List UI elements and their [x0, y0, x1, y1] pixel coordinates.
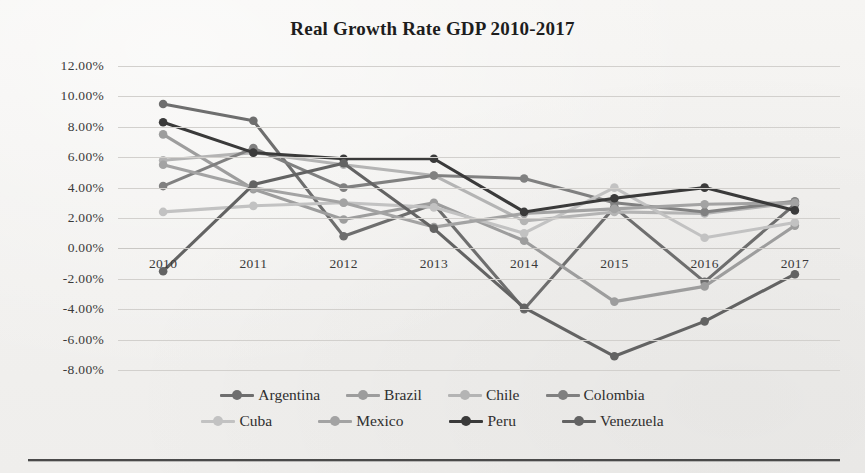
- legend-item-chile[interactable]: Chile: [448, 386, 520, 404]
- y-tick-label: 6.00%: [68, 149, 104, 165]
- legend-label: Colombia: [583, 386, 645, 404]
- x-tick-label-2017: 2017: [781, 256, 809, 272]
- y-tick-label: 2.00%: [68, 210, 104, 226]
- legend-row-2: CubaMexicoPeruVenezuela: [0, 408, 865, 434]
- legend-item-argentina[interactable]: Argentina: [220, 386, 320, 404]
- y-tick-label: 0.00%: [68, 240, 104, 256]
- x-axis: 20102011201220132014201520162017: [118, 66, 840, 370]
- x-tick-label-2015: 2015: [600, 256, 628, 272]
- legend-item-colombia[interactable]: Colombia: [546, 386, 645, 404]
- y-tick-label: -6.00%: [63, 332, 104, 348]
- y-axis: 12.00%10.00%8.00%6.00%4.00%2.00%0.00%-2.…: [0, 66, 112, 370]
- bottom-divider: [28, 459, 840, 461]
- x-tick-label-2012: 2012: [330, 256, 358, 272]
- y-tick-label: 4.00%: [68, 180, 104, 196]
- x-tick-label-2010: 2010: [149, 256, 177, 272]
- legend-item-venezuela[interactable]: Venezuela: [562, 412, 664, 430]
- legend-marker-icon: [201, 415, 235, 427]
- legend-item-cuba[interactable]: Cuba: [201, 412, 272, 430]
- gridline--8.00%: [118, 370, 840, 371]
- legend-marker-icon: [318, 415, 352, 427]
- legend-label: Mexico: [355, 412, 403, 430]
- y-tick-label: -8.00%: [63, 362, 104, 378]
- legend-item-peru[interactable]: Peru: [449, 412, 515, 430]
- x-tick-label-2016: 2016: [691, 256, 719, 272]
- legend-label: Venezuela: [599, 412, 664, 430]
- legend-label: Chile: [485, 386, 520, 404]
- legend-marker-icon: [346, 389, 380, 401]
- y-tick-label: -4.00%: [63, 301, 104, 317]
- y-tick-label: -2.00%: [63, 271, 104, 287]
- legend-marker-icon: [562, 415, 596, 427]
- x-tick-label-2011: 2011: [240, 256, 268, 272]
- legend-marker-icon: [546, 389, 580, 401]
- legend-marker-icon: [448, 389, 482, 401]
- y-tick-label: 10.00%: [61, 88, 104, 104]
- x-tick-label-2014: 2014: [510, 256, 538, 272]
- chart-title: Real Growth Rate GDP 2010-2017: [0, 18, 865, 40]
- legend-label: Cuba: [238, 412, 272, 430]
- y-tick-label: 8.00%: [68, 119, 104, 135]
- y-tick-label: 12.00%: [61, 58, 104, 74]
- legend-item-mexico[interactable]: Mexico: [318, 412, 403, 430]
- legend-row-1: ArgentinaBrazilChileColombia: [0, 382, 865, 408]
- gdp-growth-line-chart: Real Growth Rate GDP 2010-2017 12.00%10.…: [0, 0, 865, 473]
- legend-label: Peru: [486, 412, 515, 430]
- legend-label: Argentina: [257, 386, 320, 404]
- chart-legend: ArgentinaBrazilChileColombia CubaMexicoP…: [0, 382, 865, 434]
- legend-marker-icon: [220, 389, 254, 401]
- legend-item-brazil[interactable]: Brazil: [346, 386, 422, 404]
- legend-label: Brazil: [383, 386, 422, 404]
- legend-marker-icon: [449, 415, 483, 427]
- x-tick-label-2013: 2013: [420, 256, 448, 272]
